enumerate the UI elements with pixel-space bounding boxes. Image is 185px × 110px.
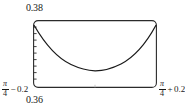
- x-axis-max-label: π 4 + 0.2: [158, 80, 185, 98]
- x-axis-min-label: π 4 − 0.2: [1, 80, 28, 98]
- curve-line: [34, 26, 156, 71]
- x-min-offset-value: 0.2: [17, 85, 28, 94]
- y-axis-min-label: 0.36: [26, 95, 43, 105]
- plot-area: [33, 20, 157, 88]
- fraction-numerator: π: [2, 80, 8, 88]
- plus-operator: +: [168, 85, 173, 94]
- pi-over-four-fraction-left: π 4: [2, 80, 9, 98]
- x-max-offset-value: 0.2: [174, 85, 185, 94]
- fraction-numerator: π: [159, 80, 165, 88]
- fraction-denominator: 4: [159, 90, 165, 98]
- plot-frame-border: [34, 21, 157, 88]
- fraction-denominator: 4: [2, 90, 8, 98]
- pi-over-four-fraction-right: π 4: [159, 80, 166, 98]
- y-axis-max-label: 0.38: [26, 3, 43, 13]
- plot-svg: [33, 20, 157, 88]
- minus-operator: −: [11, 85, 16, 94]
- plot-figure: 0.38 0.36 π 4 − 0.2 π 4 + 0.2: [0, 0, 185, 110]
